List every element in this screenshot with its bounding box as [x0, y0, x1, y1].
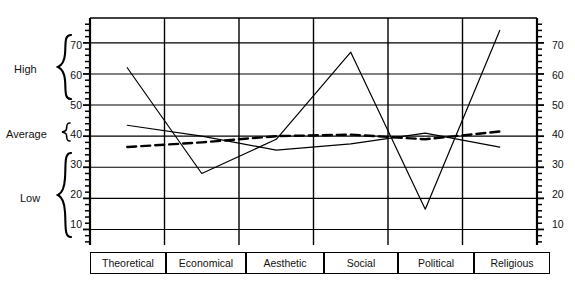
category-box-economical: Economical	[166, 252, 246, 274]
category-label: Aesthetic	[263, 257, 306, 269]
category-box-religious: Religious	[474, 252, 550, 274]
vertical-gridlines	[165, 18, 463, 245]
category-box-theoretical: Theoretical	[90, 252, 166, 274]
category-label: Social	[347, 257, 376, 269]
category-label: Political	[418, 257, 454, 269]
plot-area	[0, 0, 575, 283]
category-label: Economical	[179, 257, 233, 269]
category-label: Religious	[490, 257, 533, 269]
category-label: Theoretical	[102, 257, 154, 269]
category-box-social: Social	[324, 252, 398, 274]
category-box-aesthetic: Aesthetic	[246, 252, 324, 274]
value-profile-chart: High Average Low 70 60 50 40 30 20 10 70…	[0, 0, 575, 283]
category-box-political: Political	[398, 252, 474, 274]
